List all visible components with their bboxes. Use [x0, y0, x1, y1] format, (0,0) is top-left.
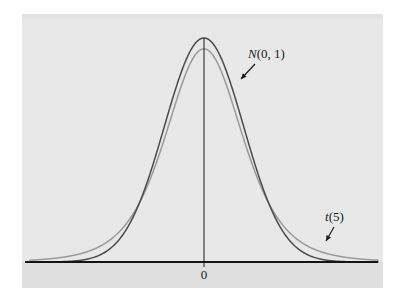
- t5-label-params: (5): [329, 209, 344, 224]
- normal-curve-label: N(0, 1): [247, 46, 285, 61]
- origin-tick-label: 0: [201, 267, 208, 282]
- density-plot: N(0, 1) t(5) 0: [0, 0, 406, 303]
- figure-root: N(0, 1) t(5) 0: [0, 0, 406, 303]
- t5-curve-label: t(5): [325, 209, 344, 224]
- normal-label-params: (0, 1): [257, 46, 285, 61]
